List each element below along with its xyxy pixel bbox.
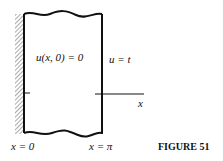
right-boundary-label: u = t xyxy=(109,54,130,65)
top-break-line xyxy=(24,11,102,17)
bottom-break-line xyxy=(24,131,102,137)
left-position-label: x = 0 xyxy=(11,141,34,152)
initial-condition-label: u(x, 0) = 0 xyxy=(36,52,83,63)
wall-hatching xyxy=(15,14,23,134)
x-axis-label: x xyxy=(138,98,143,109)
right-position-label: x = π xyxy=(89,141,112,152)
figure-caption: FIGURE 51 xyxy=(158,142,209,152)
strip-diagram xyxy=(0,0,223,161)
